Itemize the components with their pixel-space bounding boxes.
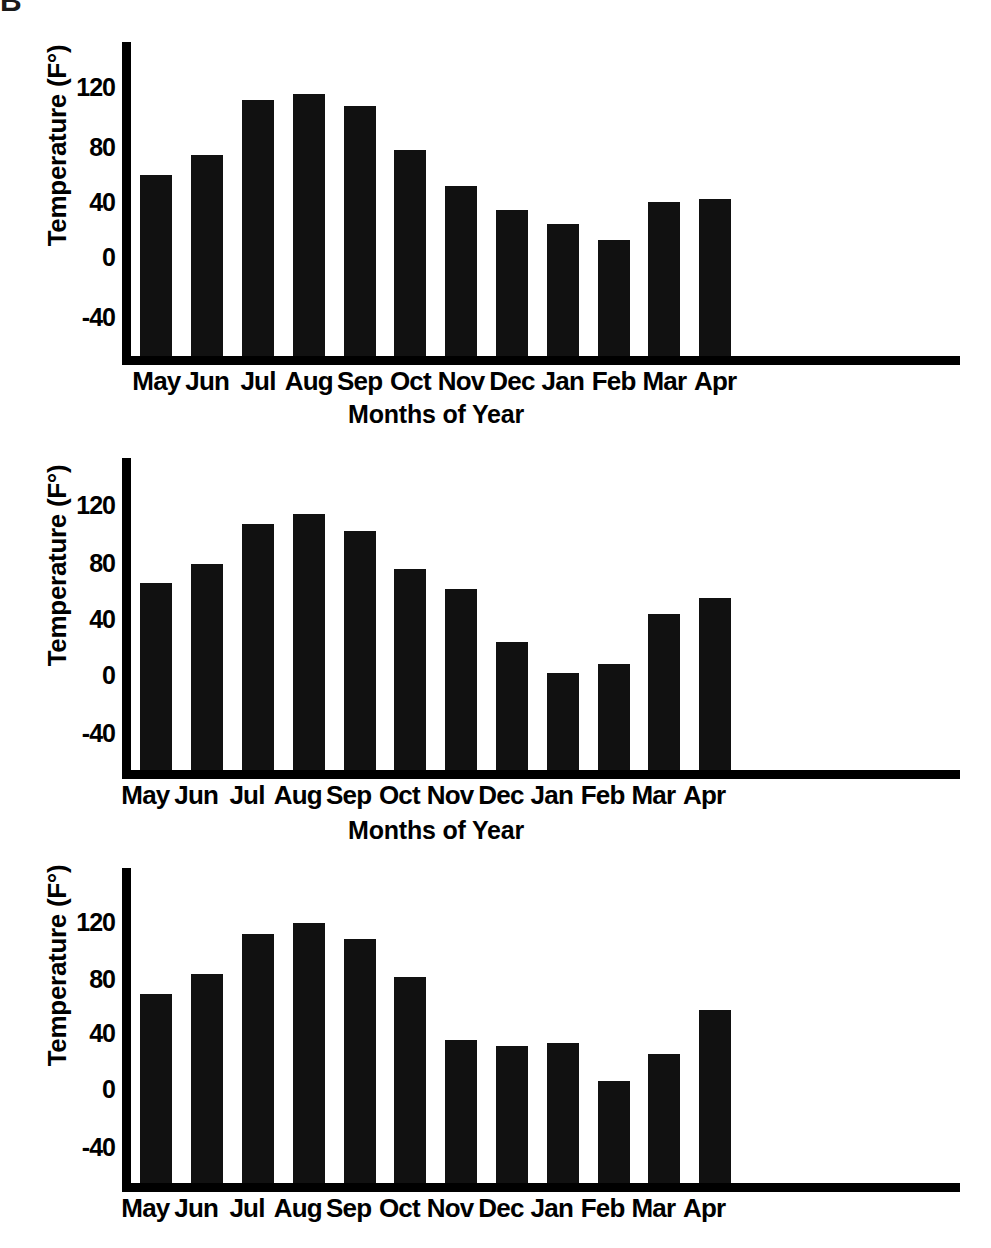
y-tick-label: 0 bbox=[55, 663, 115, 688]
x-tick-label: Jul bbox=[222, 1193, 273, 1224]
bar-slot bbox=[334, 458, 385, 770]
bar-sep bbox=[344, 939, 376, 1183]
y-tick-label: 40 bbox=[55, 190, 115, 215]
chart-top: Temperature (F°) 120 80 40 0 -40 bbox=[0, 30, 991, 430]
bar-jan bbox=[547, 673, 579, 770]
bar-may bbox=[140, 583, 172, 770]
y-tick-label: 80 bbox=[55, 135, 115, 160]
bar-slot bbox=[131, 458, 182, 770]
x-tick-label: Nov bbox=[425, 1193, 476, 1224]
bar-aug bbox=[293, 94, 325, 356]
bar-jan bbox=[547, 224, 579, 356]
y-axis-line bbox=[122, 868, 131, 1190]
bar-feb bbox=[598, 664, 630, 770]
bar-jul bbox=[242, 100, 274, 356]
bar-dec bbox=[496, 1046, 528, 1183]
plot-area bbox=[131, 868, 741, 1183]
plot-area bbox=[131, 42, 741, 356]
bar-jul bbox=[242, 524, 274, 770]
bar-slot bbox=[639, 42, 690, 356]
bar-dec bbox=[496, 210, 528, 356]
y-tick-label: 120 bbox=[55, 493, 115, 518]
bar-slot bbox=[131, 868, 182, 1183]
bar-may bbox=[140, 994, 172, 1183]
x-tick-label: Oct bbox=[374, 780, 425, 811]
bar-mar bbox=[648, 202, 680, 356]
x-tick-label: Apr bbox=[690, 366, 741, 397]
x-tick-label: May bbox=[131, 366, 182, 397]
y-axis-tick-labels: 120 80 40 0 -40 bbox=[55, 850, 115, 1180]
y-axis-tick-labels: 120 80 40 0 -40 bbox=[55, 30, 115, 360]
x-tick-label: Nov bbox=[425, 780, 476, 811]
y-tick-label: 40 bbox=[55, 607, 115, 632]
x-tick-label: Apr bbox=[679, 1193, 730, 1224]
bar-slot bbox=[385, 458, 436, 770]
x-tick-label: Sep bbox=[323, 780, 374, 811]
bar-apr bbox=[699, 199, 731, 356]
x-axis-line bbox=[122, 356, 960, 365]
bar-series bbox=[131, 868, 741, 1183]
x-tick-label: Jun bbox=[171, 1193, 222, 1224]
x-tick-label: Dec bbox=[487, 366, 538, 397]
x-tick-label: Mar bbox=[639, 366, 690, 397]
y-tick-label: -40 bbox=[55, 721, 115, 746]
bar-slot bbox=[436, 42, 487, 356]
plot-area bbox=[131, 458, 741, 770]
chart-bottom: Temperature (F°) 120 80 40 0 -40 bbox=[0, 850, 991, 1248]
y-axis-line bbox=[122, 458, 131, 778]
x-axis-tick-labels: May Jun Jul Aug Sep Oct Nov Dec Jan Feb … bbox=[120, 1193, 730, 1224]
x-axis-tick-labels: May Jun Jul Aug Sep Oct Nov Dec Jan Feb … bbox=[120, 780, 730, 811]
bar-series bbox=[131, 458, 741, 770]
bar-slot bbox=[182, 868, 233, 1183]
bar-slot bbox=[588, 42, 639, 356]
bar-sep bbox=[344, 106, 376, 356]
bar-jun bbox=[191, 155, 223, 356]
bar-mar bbox=[648, 1054, 680, 1183]
bar-dec bbox=[496, 642, 528, 770]
bar-jul bbox=[242, 934, 274, 1183]
x-tick-label: Sep bbox=[323, 1193, 374, 1224]
bar-slot bbox=[182, 458, 233, 770]
bar-slot bbox=[537, 42, 588, 356]
bar-slot bbox=[233, 868, 284, 1183]
bar-slot bbox=[283, 868, 334, 1183]
bar-slot bbox=[131, 42, 182, 356]
y-tick-label: 0 bbox=[55, 1077, 115, 1102]
x-axis-line bbox=[122, 770, 960, 779]
bar-oct bbox=[394, 977, 426, 1183]
bar-slot bbox=[182, 42, 233, 356]
bar-slot bbox=[487, 42, 538, 356]
x-tick-label: Feb bbox=[577, 1193, 628, 1224]
bar-slot bbox=[588, 868, 639, 1183]
x-tick-label: Jul bbox=[222, 780, 273, 811]
bar-mar bbox=[648, 614, 680, 770]
bar-nov bbox=[445, 186, 477, 356]
bar-slot bbox=[639, 458, 690, 770]
x-tick-label: Jan bbox=[526, 1193, 577, 1224]
bar-aug bbox=[293, 514, 325, 770]
x-tick-label: Aug bbox=[272, 1193, 323, 1224]
x-tick-label: Jun bbox=[182, 366, 233, 397]
bar-apr bbox=[699, 598, 731, 770]
bar-oct bbox=[394, 569, 426, 770]
bar-slot bbox=[334, 42, 385, 356]
bar-slot bbox=[588, 458, 639, 770]
x-tick-label: Apr bbox=[679, 780, 730, 811]
y-tick-label: 120 bbox=[55, 910, 115, 935]
bar-slot bbox=[537, 458, 588, 770]
x-tick-label: Feb bbox=[588, 366, 639, 397]
bar-slot bbox=[334, 868, 385, 1183]
y-tick-label: -40 bbox=[55, 1135, 115, 1160]
bar-feb bbox=[598, 1081, 630, 1183]
y-tick-label: 80 bbox=[55, 551, 115, 576]
x-tick-label: Sep bbox=[334, 366, 385, 397]
bar-slot bbox=[283, 458, 334, 770]
bar-nov bbox=[445, 1040, 477, 1183]
x-tick-label: Oct bbox=[385, 366, 436, 397]
bar-nov bbox=[445, 589, 477, 770]
bar-slot bbox=[233, 458, 284, 770]
figure-page: B Temperature (F°) 120 80 40 0 -40 bbox=[0, 0, 991, 1248]
bar-slot bbox=[690, 42, 741, 356]
x-tick-label: Nov bbox=[436, 366, 487, 397]
y-tick-label: 120 bbox=[55, 75, 115, 100]
